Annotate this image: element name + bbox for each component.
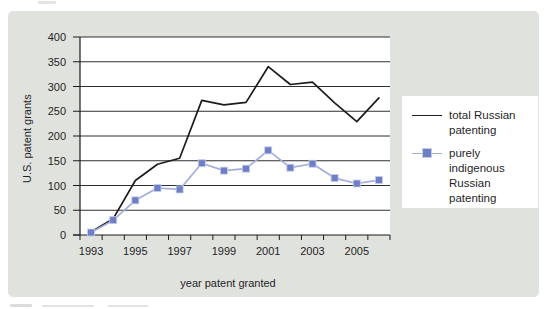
chart-panel: 0501001502002503003504001993199519971999… bbox=[8, 11, 539, 297]
svg-text:50: 50 bbox=[54, 204, 66, 216]
cropped-text-remnant-bottom bbox=[108, 305, 148, 307]
svg-text:300: 300 bbox=[48, 81, 66, 93]
x-axis-title: year patent granted bbox=[138, 277, 318, 289]
svg-text:0: 0 bbox=[60, 229, 66, 241]
svg-text:150: 150 bbox=[48, 155, 66, 167]
legend-swatch-blue-marker-line bbox=[412, 146, 442, 160]
legend-item-total: total Russian patenting bbox=[412, 108, 538, 138]
legend-item-label: total Russian patenting bbox=[449, 108, 527, 138]
svg-text:1993: 1993 bbox=[79, 245, 103, 257]
cropped-text-remnant-bottom bbox=[10, 304, 32, 307]
svg-text:350: 350 bbox=[48, 56, 66, 68]
y-axis-title: U.S. patent grants bbox=[21, 94, 33, 183]
svg-text:400: 400 bbox=[48, 31, 66, 43]
svg-text:250: 250 bbox=[48, 105, 66, 117]
legend-item-indigenous: purely indigenous Russian patenting bbox=[412, 146, 538, 206]
svg-text:1995: 1995 bbox=[123, 245, 147, 257]
cropped-text-remnant-bottom bbox=[42, 305, 94, 307]
square-marker-icon bbox=[423, 149, 431, 157]
legend: total Russian patenting purely indigenou… bbox=[402, 96, 538, 208]
svg-text:2005: 2005 bbox=[345, 245, 369, 257]
svg-text:200: 200 bbox=[48, 130, 66, 142]
svg-text:2001: 2001 bbox=[256, 245, 280, 257]
black-line-icon bbox=[412, 115, 442, 116]
svg-text:100: 100 bbox=[48, 180, 66, 192]
svg-text:1999: 1999 bbox=[212, 245, 236, 257]
figure-page: 0501001502002503003504001993199519971999… bbox=[0, 0, 548, 309]
svg-text:1997: 1997 bbox=[167, 245, 191, 257]
legend-swatch-black-line bbox=[412, 108, 442, 122]
svg-text:2003: 2003 bbox=[300, 245, 324, 257]
legend-item-label: purely indigenous Russian patenting bbox=[449, 146, 527, 206]
cropped-text-remnant-top bbox=[38, 1, 56, 4]
